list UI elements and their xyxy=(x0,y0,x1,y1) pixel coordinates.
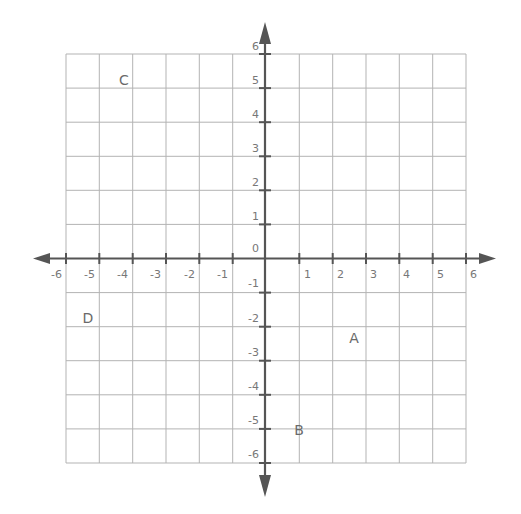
y-tick-label: 0 xyxy=(252,242,259,255)
y-tick-label: -5 xyxy=(248,414,259,427)
x-tick-label: 3 xyxy=(370,268,377,281)
y-tick-label: 5 xyxy=(252,74,259,87)
y-tick-label: -3 xyxy=(248,346,259,359)
y-tick-label: 6 xyxy=(252,40,259,53)
x-tick-label: 5 xyxy=(437,268,444,281)
y-tick-label: 2 xyxy=(252,176,259,189)
point-label-d: D xyxy=(83,310,94,326)
point-label-c: C xyxy=(119,72,129,88)
y-tick-label: 1 xyxy=(252,210,259,223)
x-tick-label: -6 xyxy=(51,268,62,281)
y-tick-label: -6 xyxy=(248,448,259,461)
y-axis-up-arrow-icon xyxy=(259,22,271,44)
y-tick-label: 4 xyxy=(252,108,259,121)
x-tick-label: -4 xyxy=(117,268,128,281)
x-tick-label: -5 xyxy=(84,268,95,281)
x-tick-label: 2 xyxy=(337,268,344,281)
point-label-a: A xyxy=(349,330,359,346)
y-tick-label: 3 xyxy=(252,142,259,155)
x-axis-left-arrow-icon xyxy=(33,253,50,264)
point-labels: A B C D xyxy=(83,72,360,438)
x-tick-label: 1 xyxy=(304,268,311,281)
x-tick-label: -3 xyxy=(150,268,161,281)
y-tick-label: -2 xyxy=(248,312,259,325)
y-tick-label: -1 xyxy=(248,277,259,290)
y-axis-down-arrow-icon xyxy=(259,475,271,497)
y-tick-label: -4 xyxy=(248,380,259,393)
x-tick-label: 6 xyxy=(470,268,477,281)
x-tick-label: 4 xyxy=(403,268,410,281)
x-tick-label: -2 xyxy=(184,268,195,281)
point-label-b: B xyxy=(294,422,304,438)
x-tick-label: -1 xyxy=(217,268,228,281)
x-axis-right-arrow-icon xyxy=(479,253,496,264)
coordinate-plane: -6 -5 -4 -3 -2 -1 1 2 3 4 5 6 6 xyxy=(0,0,521,514)
